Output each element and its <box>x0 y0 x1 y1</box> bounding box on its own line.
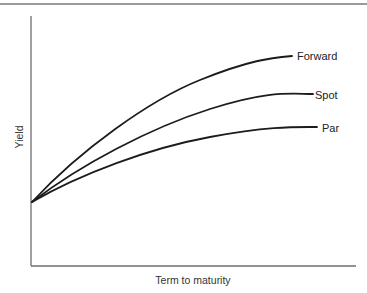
forward-label: Forward <box>297 50 337 62</box>
par-curve <box>32 127 317 202</box>
y-axis-label: Yield <box>13 125 25 148</box>
spot-label: Spot <box>315 89 338 101</box>
yield-curve-chart: Forward Spot Par Term to maturity Yield <box>0 0 367 293</box>
x-axis-label: Term to maturity <box>155 274 231 286</box>
par-label: Par <box>322 122 339 134</box>
spot-curve <box>32 94 313 202</box>
curves <box>32 56 317 202</box>
forward-curve <box>32 56 292 202</box>
